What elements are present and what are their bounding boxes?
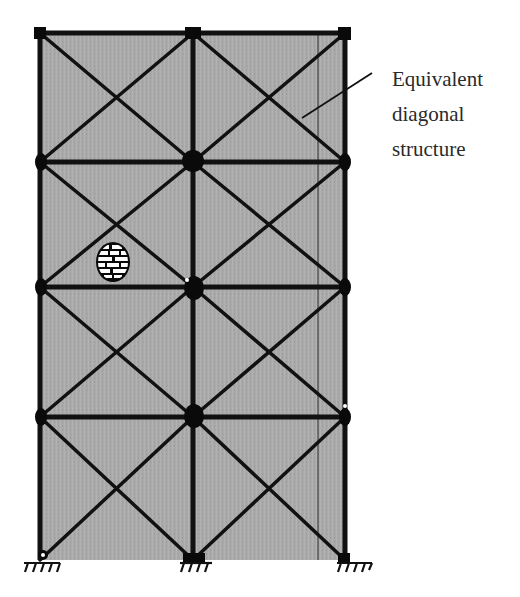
annotation-line-1: Equivalent [392, 62, 483, 97]
annotation-line-2: diagonal [392, 97, 483, 132]
annotation-line-3: structure [392, 132, 483, 167]
fixed-support-icon [337, 563, 372, 572]
annotation-label: Equivalent diagonal structure [392, 62, 483, 167]
fixed-support-icon [180, 563, 212, 572]
fixed-support-icon [24, 563, 60, 572]
